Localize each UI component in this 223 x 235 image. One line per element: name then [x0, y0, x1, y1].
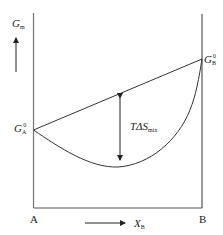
gb-subscript: B — [212, 60, 216, 66]
gb0-label: GB0 — [204, 53, 216, 66]
a-end-label: A — [30, 214, 38, 225]
x-axis-symbol: X — [134, 217, 141, 229]
y-axis-label: Gm — [12, 18, 25, 30]
tds-subscript: mix — [148, 127, 157, 133]
b-end-label: B — [199, 214, 206, 225]
ga-symbol: G — [14, 122, 22, 134]
gibbs-curve — [34, 59, 203, 167]
ga-subscript: A — [22, 129, 26, 135]
x-axis-label: XB — [134, 218, 145, 230]
y-axis-symbol: G — [12, 17, 20, 29]
ga-superscript: 0 — [23, 122, 26, 128]
diagram-canvas — [0, 0, 223, 235]
tds-mix-label: TΔSmix — [130, 121, 157, 133]
ga0-label: GA0 — [14, 122, 26, 135]
ideal-line — [34, 59, 203, 130]
x-axis-subscript: B — [141, 224, 145, 230]
gb-superscript: 0 — [213, 53, 216, 59]
tds-prefix: TΔS — [130, 120, 148, 132]
gb-symbol: G — [204, 53, 212, 65]
y-axis-subscript: m — [20, 24, 25, 30]
